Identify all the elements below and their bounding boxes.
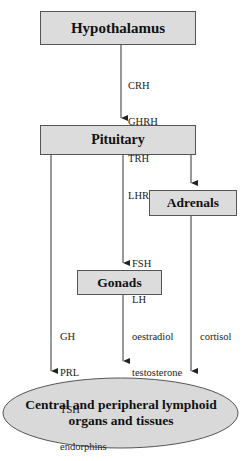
node-lymphoid-organs: Central and peripheral lymphoid organs a… xyxy=(3,378,239,448)
hormone-gh: GH xyxy=(60,331,107,343)
hormone-crh: CRH xyxy=(128,80,158,92)
node-pituitary-label: Pituitary xyxy=(91,132,145,148)
node-adrenals: Adrenals xyxy=(149,190,237,216)
hormone-fsh: FSH xyxy=(132,258,151,270)
node-hypothalamus: Hypothalamus xyxy=(40,11,196,45)
hormone-trh: TRH xyxy=(128,153,158,165)
node-lymphoid-line2: organs and tissues xyxy=(25,413,217,429)
node-lymphoid-line1: Central and peripheral lymphoid xyxy=(25,397,217,413)
node-adrenals-label: Adrenals xyxy=(167,195,219,211)
node-gonads-label: Gonads xyxy=(97,275,141,291)
edge-label-adrenals-target: cortisol xyxy=(200,306,232,355)
hormone-oestradiol: oestradiol xyxy=(132,331,182,343)
node-pituitary: Pituitary xyxy=(40,125,196,155)
hormone-cortisol: cortisol xyxy=(200,331,232,343)
hormone-lh: LH xyxy=(132,294,151,306)
node-hypothalamus-label: Hypothalamus xyxy=(71,20,165,37)
node-gonads: Gonads xyxy=(77,270,162,295)
